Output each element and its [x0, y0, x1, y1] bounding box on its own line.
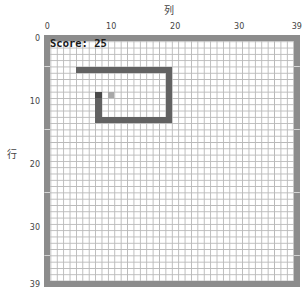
snake-segment: [95, 67, 101, 73]
game-board[interactable]: Score: 25: [44, 35, 300, 287]
snake-segment: [114, 67, 120, 73]
snake-segment: [102, 67, 108, 73]
y-tick: 30: [0, 223, 40, 232]
snake-segment: [82, 67, 88, 73]
x-axis-label: 列: [164, 2, 174, 17]
y-tick: 39: [0, 279, 40, 288]
snake-segment: [166, 73, 172, 79]
snake-segment: [153, 67, 159, 73]
snake-segment: [134, 67, 140, 73]
x-tick: 10: [106, 22, 116, 31]
snake-segment: [166, 117, 172, 123]
snake-segment: [166, 79, 172, 85]
wall-cell: [294, 281, 300, 287]
snake-segment: [166, 111, 172, 117]
x-tick: 20: [170, 22, 180, 31]
grid-lines: [44, 35, 300, 287]
wall-cell: [44, 274, 50, 280]
x-tick: 0: [45, 22, 50, 31]
snake-segment: [146, 67, 152, 73]
snake-segment: [127, 67, 133, 73]
snake-segment: [108, 67, 114, 73]
snake-segment: [166, 67, 172, 73]
snake-segment: [89, 67, 95, 73]
wall-cell: [294, 35, 300, 41]
snake-segment: [121, 67, 127, 73]
snake-segment: [166, 98, 172, 104]
food-pellet: [108, 92, 114, 98]
snake-segment: [166, 104, 172, 110]
x-tick: 39: [292, 22, 302, 31]
snake-segment: [166, 85, 172, 91]
snake-segment: [76, 67, 82, 73]
score-display: Score: 25: [50, 37, 107, 49]
snake-segment: [166, 92, 172, 98]
snake-segment: [159, 67, 165, 73]
snake-segment: [140, 67, 146, 73]
y-tick: 0: [0, 34, 40, 43]
y-tick: 10: [0, 97, 40, 106]
y-tick: 20: [0, 160, 40, 169]
x-tick: 30: [234, 22, 244, 31]
